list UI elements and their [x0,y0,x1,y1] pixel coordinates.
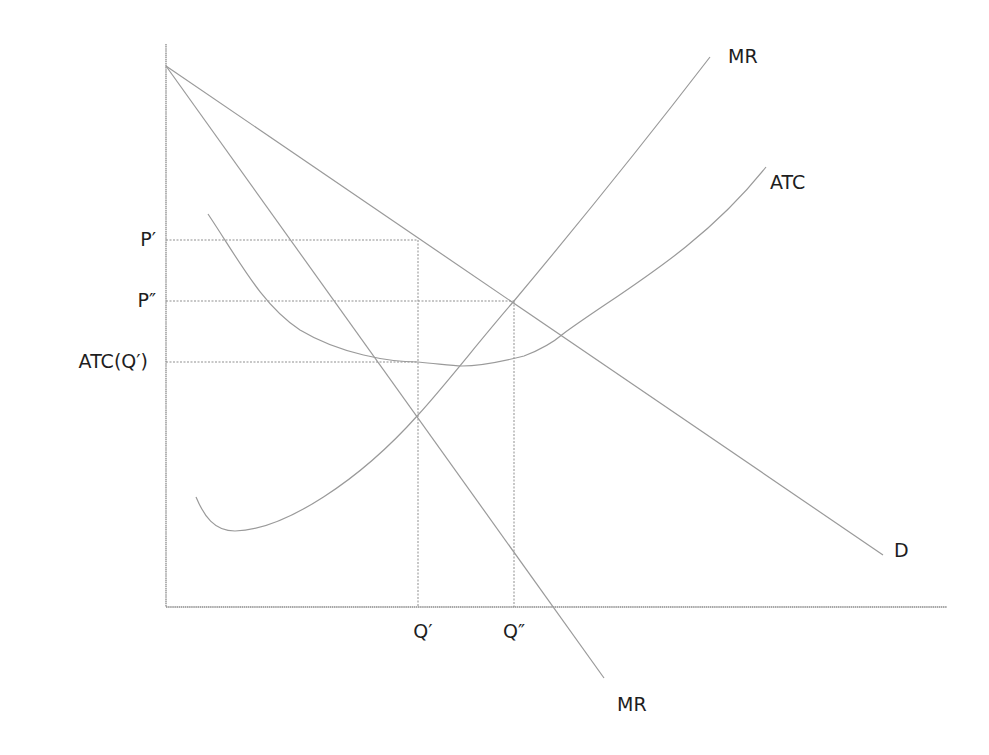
p-prime-label: P′ [110,230,156,249]
economics-diagram [0,0,989,755]
p-double-prime-label: P″ [110,291,156,310]
q-double-prime-label: Q″ [503,622,525,641]
mr-bottom-label: MR [617,695,647,714]
demand-curve [166,66,883,555]
atc-curve-label: ATC [770,173,805,192]
mr-downward-curve [166,66,604,678]
atc-curve [208,167,766,366]
mr-top-label: MR [728,47,758,66]
q-prime-label: Q′ [413,622,432,641]
axes [166,44,947,607]
demand-curve-label: D [894,541,909,560]
atc-q-prime-label: ATC(Q′) [40,352,148,371]
guide-lines [166,240,514,607]
mr-upward-curve [196,57,710,531]
